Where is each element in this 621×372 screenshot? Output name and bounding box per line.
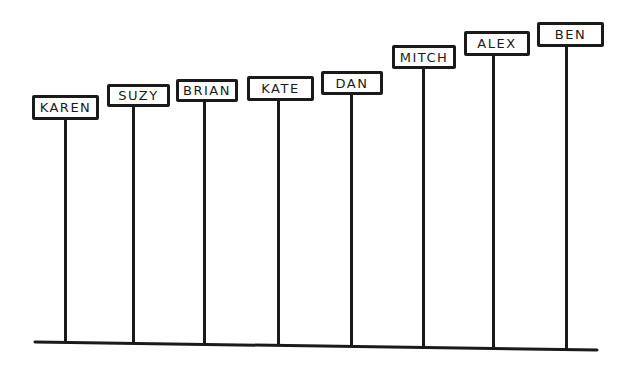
pole-mitch — [422, 67, 425, 348]
sign-mitch: MITCH — [392, 45, 456, 69]
ground-line — [35, 342, 597, 350]
pole-brian — [203, 100, 206, 345]
sign-ben: BEN — [537, 22, 604, 47]
pole-dan — [350, 93, 353, 347]
pole-kate — [277, 99, 280, 346]
sign-kate: KATE — [247, 76, 314, 101]
sign-alex: ALEX — [464, 31, 530, 56]
pole-karen — [64, 118, 67, 343]
pole-alex — [492, 54, 495, 349]
sign-dan: DAN — [321, 71, 383, 95]
sign-karen: KAREN — [32, 95, 99, 120]
sign-suzy: SUZY — [107, 84, 170, 107]
pole-suzy — [132, 105, 135, 344]
sign-brian: BRIAN — [176, 79, 238, 102]
signpost-diagram: KAREN SUZY BRIAN KATE DAN MITCH ALEX BEN — [0, 0, 621, 372]
pole-ben — [565, 45, 568, 350]
